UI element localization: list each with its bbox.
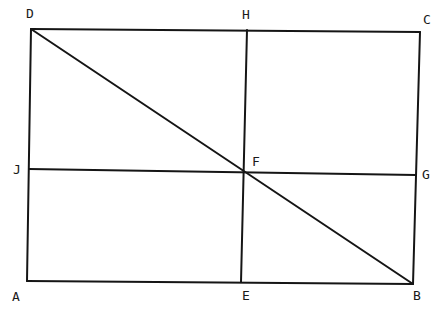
segment-jg — [29, 169, 416, 175]
segment-he — [241, 30, 247, 282]
label-j: J — [13, 162, 21, 177]
label-b: B — [413, 288, 421, 303]
label-a: A — [12, 289, 20, 304]
segment-da — [27, 29, 31, 281]
diagonal-db — [31, 29, 413, 284]
label-c: C — [423, 12, 431, 27]
label-g: G — [422, 167, 430, 182]
segment-bc — [413, 32, 420, 284]
label-d: D — [26, 6, 34, 21]
label-f: F — [252, 154, 260, 169]
geometry-diagram: D H C J F G A E B — [0, 0, 439, 323]
label-e: E — [242, 288, 250, 303]
segment-ab — [27, 281, 413, 284]
segment-cd — [31, 29, 420, 32]
label-h: H — [242, 7, 250, 22]
